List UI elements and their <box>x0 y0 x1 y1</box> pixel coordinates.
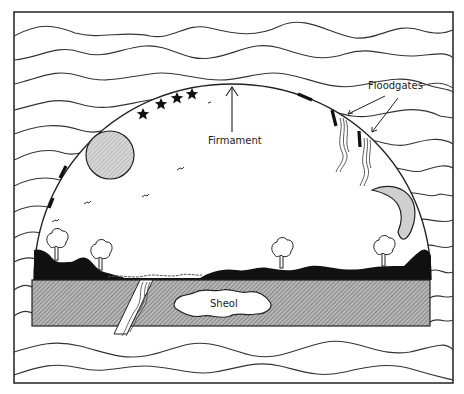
sun-icon <box>86 131 134 179</box>
cosmology-diagram: Floodgates Firmament <box>0 0 464 394</box>
floodgates-label: Floodgates <box>368 80 423 91</box>
sheol-label: Sheol <box>210 298 238 309</box>
outer-frame <box>14 12 453 383</box>
firmament-label: Firmament <box>208 135 262 146</box>
